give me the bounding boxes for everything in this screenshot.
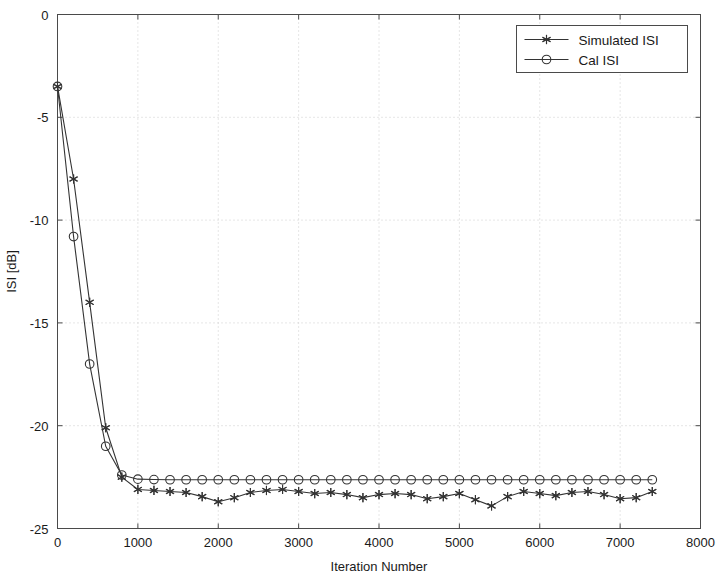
axis-titles: Iteration NumberISI [dB] bbox=[4, 250, 428, 573]
series-2 bbox=[53, 82, 656, 484]
x-tick-label: 2000 bbox=[204, 535, 233, 550]
axis-tick-labels: 0100020003000400050006000700080000-5-10-… bbox=[30, 8, 715, 550]
legend[interactable]: Simulated ISICal ISI bbox=[517, 26, 688, 73]
isi-convergence-chart: 0100020003000400050006000700080000-5-10-… bbox=[0, 0, 718, 575]
series-line bbox=[58, 86, 653, 505]
marker-star bbox=[70, 174, 78, 183]
marker-star bbox=[86, 298, 94, 307]
y-tick-label: -15 bbox=[30, 316, 49, 331]
figure-container: 0100020003000400050006000700080000-5-10-… bbox=[0, 0, 718, 575]
y-tick-label: -20 bbox=[30, 419, 49, 434]
y-axis-title: ISI [dB] bbox=[4, 250, 19, 293]
x-tick-label: 1000 bbox=[123, 535, 152, 550]
marker-star bbox=[471, 495, 479, 504]
series-markers bbox=[53, 82, 656, 484]
x-tick-label: 6000 bbox=[525, 535, 554, 550]
marker-star bbox=[488, 501, 496, 510]
x-axis-title: Iteration Number bbox=[331, 559, 428, 574]
x-tick-label: 0 bbox=[54, 535, 61, 550]
series-markers bbox=[54, 82, 657, 511]
y-tick-label: -10 bbox=[30, 213, 49, 228]
data-series-layer bbox=[53, 82, 656, 511]
marker-star bbox=[648, 487, 656, 496]
series-1 bbox=[54, 82, 657, 511]
marker-star bbox=[504, 492, 512, 501]
grid-lines bbox=[58, 15, 701, 529]
x-tick-label: 4000 bbox=[365, 535, 394, 550]
legend-label: Cal ISI bbox=[579, 53, 620, 68]
x-tick-label: 7000 bbox=[606, 535, 635, 550]
y-tick-label: -5 bbox=[37, 110, 49, 125]
y-tick-label: 0 bbox=[41, 8, 48, 23]
marker-star bbox=[230, 493, 238, 502]
marker-star bbox=[214, 497, 222, 506]
x-tick-label: 3000 bbox=[284, 535, 313, 550]
x-tick-label: 5000 bbox=[445, 535, 474, 550]
marker-star bbox=[198, 492, 206, 501]
legend-label: Simulated ISI bbox=[579, 33, 659, 48]
x-tick-label: 8000 bbox=[686, 535, 715, 550]
y-tick-label: -25 bbox=[30, 522, 49, 537]
series-line bbox=[58, 86, 653, 479]
marker-star bbox=[118, 473, 126, 482]
